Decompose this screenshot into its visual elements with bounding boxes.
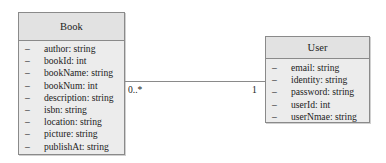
class-book[interactable]: Book –author: string –bookId: int –bookN… (18, 12, 125, 155)
class-user[interactable]: User –email: string –identity: string –p… (265, 36, 370, 123)
attribute: –email: string (272, 62, 369, 74)
attribute: –bookId: int (25, 55, 124, 67)
multiplicity-book: 0..* (128, 84, 142, 95)
class-book-attributes: –author: string –bookId: int –bookName: … (19, 41, 124, 153)
attribute-text: publishAt: string (44, 141, 109, 153)
attribute-text: userId: int (291, 99, 330, 111)
visibility-private: – (272, 99, 291, 111)
attribute: –author: string (25, 43, 124, 55)
visibility-private: – (272, 111, 291, 123)
visibility-private: – (25, 67, 44, 79)
attribute: –bookNum: int (25, 80, 124, 92)
attribute-text: author: string (44, 43, 95, 55)
attribute: –location: string (25, 116, 124, 128)
attribute-text: isbn: string (44, 104, 87, 116)
attribute-text: bookNum: int (44, 80, 98, 92)
attribute: –isbn: string (25, 104, 124, 116)
visibility-private: – (25, 141, 44, 153)
visibility-private: – (25, 43, 44, 55)
visibility-private: – (25, 116, 44, 128)
attribute: –description: string (25, 92, 124, 104)
visibility-private: – (25, 80, 44, 92)
attribute: –identity: string (272, 74, 369, 86)
attribute-text: identity: string (291, 74, 347, 86)
attribute-text: email: string (291, 62, 339, 74)
attribute-text: location: string (44, 116, 102, 128)
visibility-private: – (25, 104, 44, 116)
attribute-text: password: string (291, 86, 354, 98)
attribute: –bookName: string (25, 67, 124, 79)
attribute: –picture: string (25, 128, 124, 140)
association-line[interactable] (125, 81, 265, 82)
class-user-title: User (266, 37, 369, 59)
attribute-text: description: string (44, 92, 114, 104)
visibility-private: – (25, 128, 44, 140)
attribute-text: bookId: int (44, 55, 86, 67)
visibility-private: – (25, 92, 44, 104)
visibility-private: – (272, 86, 291, 98)
attribute: –publishAt: string (25, 141, 124, 153)
class-user-attributes: –email: string –identity: string –passwo… (266, 59, 369, 123)
attribute-text: picture: string (44, 128, 98, 140)
attribute: –userId: int (272, 99, 369, 111)
attribute: –password: string (272, 86, 369, 98)
class-book-title: Book (19, 13, 124, 41)
attribute-text: bookName: string (44, 67, 113, 79)
attribute-text: userNmae: string (291, 111, 357, 123)
visibility-private: – (25, 55, 44, 67)
visibility-private: – (272, 62, 291, 74)
attribute: –userNmae: string (272, 111, 369, 123)
visibility-private: – (272, 74, 291, 86)
multiplicity-user: 1 (252, 84, 257, 95)
